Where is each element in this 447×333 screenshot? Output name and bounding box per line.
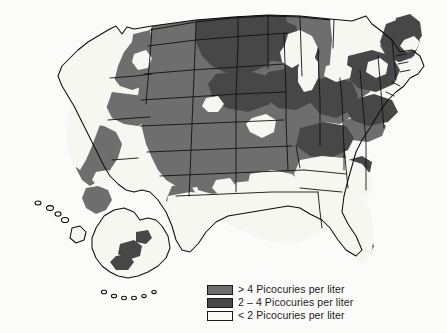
zone-high-california-south [82,186,112,214]
legend-label-mid: 2 – 4 Picocuries per liter [238,296,353,309]
aleutian-islands-outline [101,290,156,299]
legend-label-low: < 2 Picocuries per liter [238,309,345,322]
legend-swatch-mid [207,298,233,308]
legend-swatch-low [207,311,233,321]
legend-row-mid: 2 – 4 Picocuries per liter [207,296,417,309]
legend-row-high: > 4 Picocuries per liter [207,283,417,296]
legend-label-high: > 4 Picocuries per liter [238,283,345,296]
radon-level-legend: > 4 Picocuries per liter 2 – 4 Picocurie… [207,283,417,322]
legend-row-low: < 2 Picocuries per liter [207,309,417,322]
hawaii-base [35,201,86,243]
radon-map-figure: > 4 Picocuries per liter 2 – 4 Picocurie… [0,0,447,333]
legend-swatch-high [207,285,233,295]
